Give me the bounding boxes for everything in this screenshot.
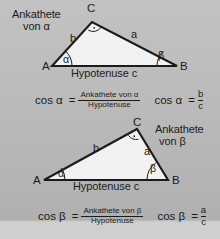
label-ankathete-beta-line2: von β xyxy=(155,136,204,148)
label-angle-alpha-bottom: α xyxy=(58,168,64,179)
formula-cos-alpha-short-equals: = xyxy=(188,94,195,106)
formula-cos-beta-numerator: Ankathete von β xyxy=(81,207,143,217)
formula-cos-beta-denominator: Hypotenuse xyxy=(91,217,134,226)
formula-cos-alpha-short-lhs: cos α xyxy=(154,94,182,106)
label-side-b-top: b xyxy=(70,33,76,45)
label-angle-beta-bottom: β xyxy=(150,163,156,174)
label-angle-beta-top: β xyxy=(158,50,164,61)
label-ankathete-alpha: Ankathete von α xyxy=(12,9,61,32)
formula-cos-beta-lhs: cos β xyxy=(38,210,66,222)
formula-cos-alpha-fraction: Ankathete von α Hypotenuse xyxy=(78,91,140,110)
label-side-a-bottom: a xyxy=(144,146,150,158)
label-vertex-c-top: C xyxy=(87,2,95,14)
formula-cos-beta-short-numerator: a xyxy=(201,205,206,217)
label-vertex-b-top: B xyxy=(180,60,188,72)
label-vertex-b-bottom: B xyxy=(172,174,180,186)
label-ankathete-alpha-line2: von α xyxy=(12,21,61,33)
label-ankathete-beta: Ankathete von β xyxy=(155,124,204,147)
formula-cos-alpha-denominator: Hypotenuse xyxy=(88,101,131,110)
formula-cos-alpha-short-fraction: b c xyxy=(198,89,203,112)
formula-cos-alpha-numerator: Ankathete von α xyxy=(78,91,140,101)
formula-cos-alpha-short-numerator: b xyxy=(198,89,203,101)
label-side-b-bottom: b xyxy=(93,143,99,155)
label-hypotenuse-top: Hypotenuse c xyxy=(71,68,137,80)
formula-cos-alpha-equals: = xyxy=(69,94,76,106)
formula-cos-beta-short-equals: = xyxy=(191,210,198,222)
label-vertex-a-bottom: A xyxy=(33,174,41,186)
formula-cos-beta-fraction: Ankathete von β Hypotenuse xyxy=(81,207,143,226)
label-ankathete-alpha-line1: Ankathete xyxy=(12,9,61,21)
formula-cos-beta-short-denominator: c xyxy=(201,217,206,228)
label-vertex-a-top: A xyxy=(42,60,50,72)
figure-page: Ankathete von α C A B b a α β Hypotenuse… xyxy=(0,0,220,239)
label-side-a-top: a xyxy=(131,29,137,41)
label-vertex-c-bottom: C xyxy=(133,116,141,128)
formula-cos-beta-short-fraction: a c xyxy=(201,205,206,228)
label-hypotenuse-bottom: Hypotenuse c xyxy=(73,181,139,193)
right-angle-dot-bottom xyxy=(133,135,135,137)
formula-cos-alpha: cos α = Ankathete von α Hypotenuse cos α… xyxy=(35,89,203,112)
formula-cos-alpha-lhs: cos α xyxy=(35,94,63,106)
formula-cos-beta-equals: = xyxy=(72,210,79,222)
formula-cos-beta: cos β = Ankathete von β Hypotenuse cos β… xyxy=(38,205,206,228)
triangles-diagram xyxy=(0,0,220,239)
formula-cos-alpha-short-denominator: c xyxy=(198,101,203,112)
label-ankathete-beta-line1: Ankathete xyxy=(155,124,204,136)
formula-cos-beta-short-lhs: cos β xyxy=(157,210,185,222)
label-angle-alpha-top: α xyxy=(63,54,69,65)
right-angle-dot-top xyxy=(93,27,95,29)
